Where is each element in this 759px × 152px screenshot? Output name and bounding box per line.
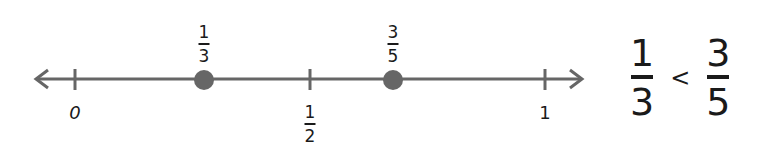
- numerator: 3: [388, 24, 399, 41]
- fraction-bar: [631, 75, 653, 79]
- denominator: 2: [305, 128, 316, 145]
- tick-label-half: 1 2: [305, 104, 316, 145]
- less-than-operator: <: [670, 64, 690, 92]
- tick-label-0: 0: [69, 104, 80, 122]
- comparison: 1 3 < 3 5: [630, 34, 730, 121]
- fraction-bar: [199, 43, 210, 45]
- point-three-fifths: [383, 70, 403, 90]
- numerator: 1: [305, 104, 316, 121]
- comparison-right-fraction: 3 5: [706, 34, 730, 121]
- fraction-bar: [388, 43, 399, 45]
- denominator: 5: [706, 83, 730, 121]
- fraction-bar: [707, 75, 729, 79]
- numerator: 1: [199, 24, 210, 41]
- point-one-third: [194, 70, 214, 90]
- point-label-three-fifths: 3 5: [388, 24, 399, 65]
- tick-label-1: 1: [539, 104, 550, 122]
- numerator: 3: [706, 34, 730, 72]
- denominator: 3: [630, 83, 654, 121]
- denominator: 3: [199, 48, 210, 65]
- fraction-bar: [305, 123, 316, 125]
- point-label-one-third: 1 3: [199, 24, 210, 65]
- numerator: 1: [630, 34, 654, 72]
- comparison-left-fraction: 1 3: [630, 34, 654, 121]
- denominator: 5: [388, 48, 399, 65]
